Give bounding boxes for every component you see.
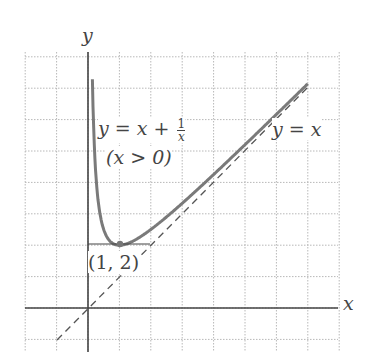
curve-fraction-denominator: x: [177, 131, 185, 143]
curve-equation-text: y = x +: [98, 117, 175, 139]
line-equation: y = x: [272, 118, 321, 140]
min-point-marker: [117, 241, 123, 247]
y-axis-label: y: [82, 24, 93, 46]
x-axis-label: x: [343, 292, 354, 314]
min-point-label: (1, 2): [88, 251, 139, 273]
curve-equation: y = x + 1 x: [98, 117, 185, 143]
graph-canvas: [0, 0, 365, 352]
curve-fraction-numerator: 1: [177, 118, 185, 131]
curve-domain: (x > 0): [106, 146, 172, 168]
